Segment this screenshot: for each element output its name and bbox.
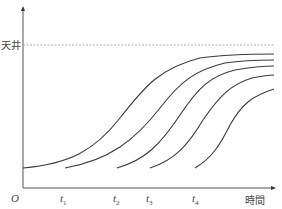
- tick-t1-sub: 1: [63, 199, 67, 207]
- x-axis-label: 時間: [245, 195, 265, 206]
- ceiling-label: 天井: [1, 40, 21, 51]
- curves: [23, 54, 274, 168]
- y-axis-arrow-icon: [21, 6, 25, 11]
- curve-3: [117, 66, 274, 168]
- x-axis-arrow-icon: [271, 186, 276, 190]
- tick-t3: t3: [146, 193, 153, 209]
- curve-1: [23, 54, 274, 168]
- tick-t4: t4: [192, 193, 199, 209]
- tick-t3-sub: 3: [149, 199, 153, 207]
- tick-t2-sub: 2: [116, 199, 120, 207]
- curve-5: [195, 89, 274, 168]
- origin-label: O: [11, 193, 19, 204]
- curve-2: [65, 60, 274, 168]
- chart-canvas: [0, 0, 282, 209]
- tick-t4-sub: 4: [195, 199, 199, 207]
- tick-t2: t2: [113, 193, 120, 209]
- tick-t1: t1: [60, 193, 67, 209]
